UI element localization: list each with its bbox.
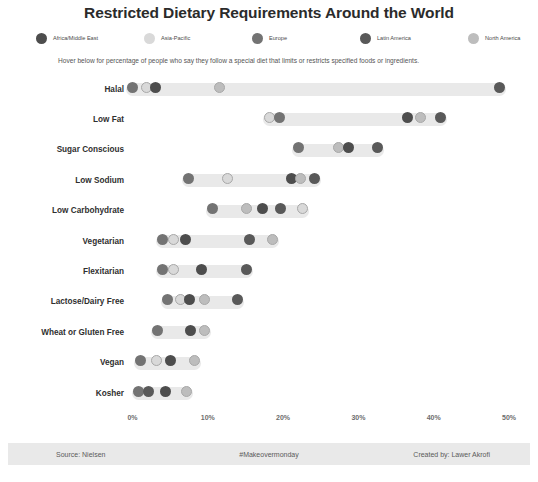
footer-credit: Created by: Lawer Akrofi (413, 443, 490, 465)
data-point-africa-middle-east[interactable] (180, 234, 191, 245)
row-label: Vegan (0, 348, 124, 378)
footer-bar: Source: Nielsen #Makeovermonday Created … (8, 443, 530, 465)
legend-swatch-icon (360, 33, 371, 44)
x-axis-tick-label: 0% (127, 414, 137, 421)
x-axis-tick-label: 20% (276, 414, 290, 421)
x-axis-tick-label: 30% (351, 414, 365, 421)
chart-row[interactable]: Sugar Conscious (0, 135, 538, 165)
data-point-latin-america[interactable] (143, 386, 154, 397)
data-point-latin-america[interactable] (372, 142, 383, 153)
chart-row[interactable]: Kosher (0, 378, 538, 408)
row-label: Low Sodium (0, 165, 124, 195)
data-point-africa-middle-east[interactable] (185, 325, 196, 336)
data-point-north-america[interactable] (199, 294, 210, 305)
data-point-north-america[interactable] (241, 203, 252, 214)
row-label: Flexitarian (0, 256, 124, 286)
x-axis-tick-label: 40% (427, 414, 441, 421)
data-point-asia-pacific[interactable] (168, 234, 179, 245)
page-title: Restricted Dietary Requirements Around t… (0, 4, 538, 22)
row-label: Halal (0, 74, 124, 104)
legend-item-africa-middle-east[interactable]: Africa/Middle East (36, 33, 144, 44)
data-point-africa-middle-east[interactable] (257, 203, 268, 214)
data-point-europe[interactable] (152, 325, 163, 336)
chart-row[interactable]: Low Carbohydrate (0, 196, 538, 226)
data-point-europe[interactable] (157, 264, 168, 275)
data-point-north-america[interactable] (415, 112, 426, 123)
legend-item-north-america[interactable]: North America (468, 33, 520, 44)
data-point-latin-america[interactable] (435, 112, 446, 123)
x-axis-tick-label: 50% (502, 414, 516, 421)
chart-container: Restricted Dietary Requirements Around t… (0, 0, 538, 482)
chart-row[interactable]: Wheat or Gluten Free (0, 317, 538, 347)
row-range-track (126, 83, 506, 96)
legend-swatch-icon (252, 33, 263, 44)
chart-row[interactable]: Halal (0, 74, 538, 104)
chart-row[interactable]: Vegan (0, 348, 538, 378)
data-point-europe[interactable] (157, 234, 168, 245)
legend-item-latin-america[interactable]: Latin America (360, 33, 468, 44)
data-point-latin-america[interactable] (232, 294, 243, 305)
data-point-africa-middle-east[interactable] (402, 112, 413, 123)
data-point-africa-middle-east[interactable] (150, 82, 161, 93)
data-point-north-america[interactable] (295, 173, 306, 184)
legend-item-label: Africa/Middle East (53, 35, 98, 41)
legend-swatch-icon (36, 33, 47, 44)
legend-item-label: North America (485, 35, 520, 41)
legend-swatch-icon (468, 33, 479, 44)
data-point-latin-america[interactable] (309, 173, 320, 184)
data-point-north-america[interactable] (267, 234, 278, 245)
row-label: Vegetarian (0, 226, 124, 256)
legend-item-label: Europe (269, 35, 287, 41)
chart-row[interactable]: Low Fat (0, 104, 538, 134)
chart-row[interactable]: Vegetarian (0, 226, 538, 256)
row-label: Low Carbohydrate (0, 196, 124, 226)
x-axis: 0%10%20%30%40%50% (0, 414, 538, 430)
legend-item-asia-pacific[interactable]: Asia-Pacific (144, 33, 252, 44)
row-label: Low Fat (0, 104, 124, 134)
plot-area: HalalLow FatSugar ConsciousLow SodiumLow… (0, 74, 538, 410)
data-point-asia-pacific[interactable] (168, 264, 179, 275)
data-point-north-america[interactable] (214, 82, 225, 93)
chart-row[interactable]: Low Sodium (0, 165, 538, 195)
data-point-latin-america[interactable] (244, 234, 255, 245)
x-axis-tick-label: 10% (201, 414, 215, 421)
row-label: Sugar Conscious (0, 135, 124, 165)
row-label: Wheat or Gluten Free (0, 317, 124, 347)
row-label: Lactose/Dairy Free (0, 287, 124, 317)
row-label: Kosher (0, 378, 124, 408)
data-point-europe[interactable] (207, 203, 218, 214)
data-point-north-america[interactable] (181, 386, 192, 397)
legend-item-europe[interactable]: Europe (252, 33, 360, 44)
chart-row[interactable]: Lactose/Dairy Free (0, 287, 538, 317)
legend-item-label: Latin America (377, 35, 411, 41)
data-point-africa-middle-east[interactable] (160, 386, 171, 397)
chart-subtitle: Hover below for percentage of people who… (58, 57, 518, 64)
data-point-north-america[interactable] (199, 325, 210, 336)
legend-swatch-icon (144, 33, 155, 44)
legend-item-label: Asia-Pacific (161, 35, 190, 41)
data-point-europe[interactable] (127, 82, 138, 93)
data-point-europe[interactable] (274, 112, 285, 123)
data-point-asia-pacific[interactable] (222, 173, 233, 184)
chart-row[interactable]: Flexitarian (0, 256, 538, 286)
legend: Africa/Middle EastAsia-PacificEuropeLati… (36, 30, 514, 46)
data-point-latin-america[interactable] (494, 82, 505, 93)
